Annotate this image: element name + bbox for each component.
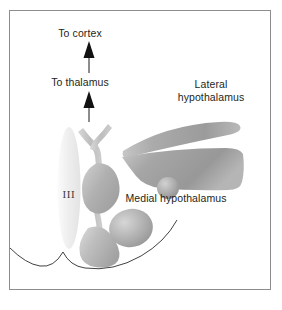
lateral-band-lower-shape xyxy=(122,148,244,190)
diagram-artwork xyxy=(9,10,271,290)
label-to-cortex: To cortex xyxy=(0,27,160,40)
label-third-ventricle: III xyxy=(54,188,84,200)
label-to-thalamus: To thalamus xyxy=(0,76,160,89)
fornix-right-branch xyxy=(90,124,112,151)
label-lateral-line1: Lateral xyxy=(195,78,228,90)
medial-nucleus-shape xyxy=(82,163,120,214)
arrow-to-thalamus xyxy=(84,91,95,122)
hypothalamus-diagram: To cortex To thalamus Lateral hypothalam… xyxy=(0,0,282,310)
label-lateral-hypothalamus: Lateral hypothalamus xyxy=(158,78,264,103)
label-lateral-line2: hypothalamus xyxy=(178,91,245,103)
label-medial-hypothalamus: Medial hypothalamus xyxy=(108,192,244,205)
arrow-to-cortex xyxy=(84,41,95,73)
